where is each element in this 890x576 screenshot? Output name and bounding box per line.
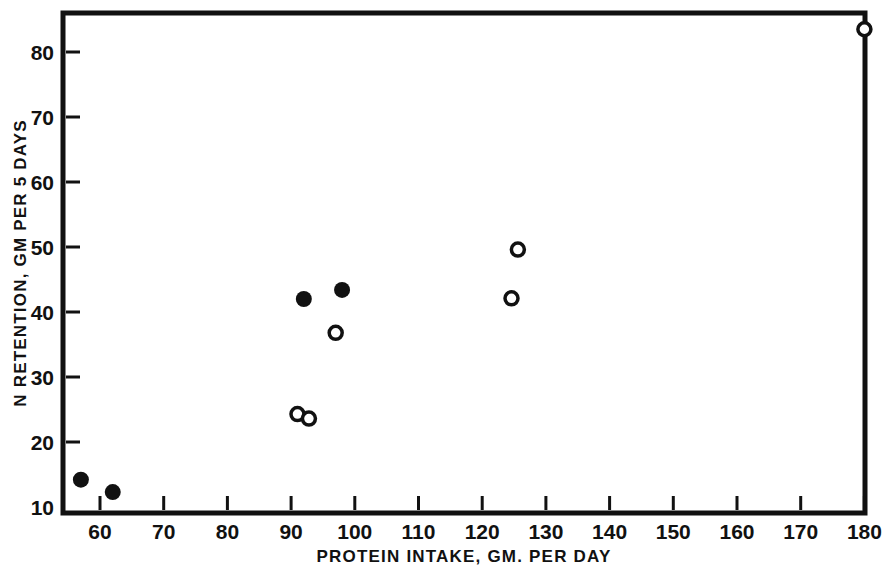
data-point-filled <box>296 291 312 307</box>
x-tick-label: 160 <box>719 520 754 543</box>
data-point-open <box>302 412 315 425</box>
figure-background <box>0 0 890 576</box>
x-tick-label: 150 <box>656 520 691 543</box>
y-axis-title: N RETENTION, GM PER 5 DAYS <box>11 119 30 407</box>
data-point-open <box>329 326 342 339</box>
x-tick-label: 90 <box>279 520 302 543</box>
y-tick-label: 20 <box>31 431 54 454</box>
plot-canvas: 60708090100110120130140150160170180 1020… <box>0 0 890 576</box>
data-point-open <box>505 292 518 305</box>
data-point-filled <box>334 282 350 298</box>
x-tick-label: 140 <box>592 520 627 543</box>
y-tick-label: 80 <box>31 41 54 64</box>
y-tick-label: 30 <box>31 366 54 389</box>
data-point-filled <box>73 472 89 488</box>
x-tick-label: 110 <box>402 520 436 543</box>
x-tick-label: 70 <box>152 520 175 543</box>
y-tick-label: 10 <box>31 496 54 519</box>
x-axis-title: PROTEIN INTAKE, GM. PER DAY <box>317 547 612 566</box>
x-tick-label: 80 <box>216 520 239 543</box>
y-tick-label: 70 <box>31 106 54 129</box>
y-tick-label: 60 <box>31 171 54 194</box>
x-tick-label: 100 <box>337 520 372 543</box>
x-tick-label: 170 <box>783 520 818 543</box>
scatter-plot-figure: 60708090100110120130140150160170180 1020… <box>0 0 890 576</box>
x-tick-label: 60 <box>88 520 111 543</box>
y-tick-label: 50 <box>31 236 54 259</box>
x-tick-label: 180 <box>847 520 882 543</box>
x-tick-label: 120 <box>465 520 500 543</box>
y-tick-label: 40 <box>31 301 54 324</box>
data-point-open <box>511 243 524 256</box>
x-tick-label: 130 <box>528 520 563 543</box>
data-point-open <box>858 23 871 36</box>
data-point-filled <box>105 484 121 500</box>
